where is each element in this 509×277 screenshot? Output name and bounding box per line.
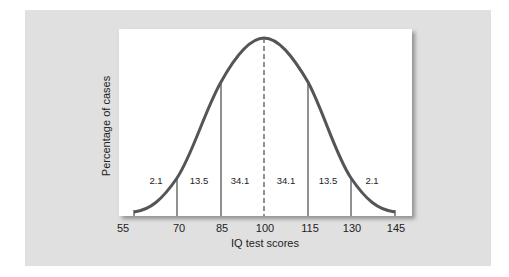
segment-label: 13.5 (190, 175, 209, 186)
segment-label: 2.1 (365, 175, 378, 186)
tick-label: 70 (173, 222, 185, 234)
bell-curve-chart: 2.1 13.5 34.1 34.1 13.5 2.1 55 70 85 100… (0, 0, 509, 277)
tick-label: 100 (256, 222, 274, 234)
tick-label: 85 (216, 222, 228, 234)
segment-label: 13.5 (319, 175, 338, 186)
segment-label: 34.1 (277, 175, 296, 186)
tick-label: 55 (117, 222, 129, 234)
tick-label: 145 (387, 222, 405, 234)
tick-label: 130 (343, 222, 361, 234)
segment-label: 34.1 (231, 175, 250, 186)
segment-label: 2.1 (149, 175, 162, 186)
x-axis-label: IQ test scores (231, 237, 299, 249)
tick-label: 115 (301, 222, 319, 234)
y-axis-label: Percentage of cases (100, 75, 112, 176)
